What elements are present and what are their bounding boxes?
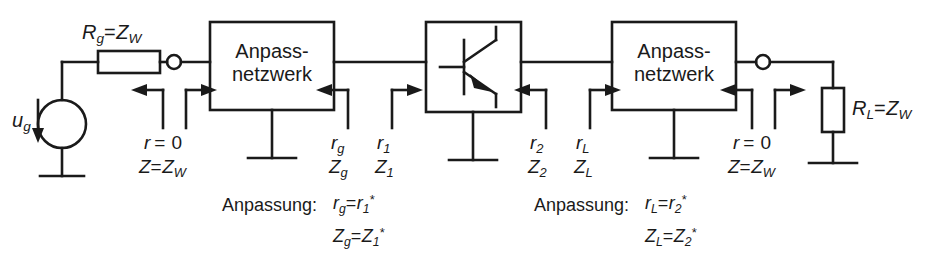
label-Z1-impedance: Z1 [375, 157, 394, 180]
ann-l2-lhs-sub: g [344, 235, 351, 249]
arrow-r1-head [407, 84, 423, 96]
label-output-z: Z=ZW [728, 157, 775, 180]
output-z-equals: = [740, 156, 752, 177]
ann-l1-rhs-sub: 1 [363, 202, 370, 216]
ann-l1-lhs-sub: g [339, 202, 346, 216]
ann-r1-eq: = [658, 193, 669, 213]
output-z-symbol: Z [728, 156, 740, 177]
input-z-equals: = [151, 156, 163, 177]
resistor-rl-body [822, 88, 844, 132]
Zg-symbol: Z [329, 156, 341, 177]
mn-right-line1: Anpass- [612, 40, 736, 63]
zw-subscript: W [128, 31, 141, 46]
input-z-value-sub: W [174, 165, 186, 180]
box-label-matching-network-left: Anpass- netzwerk [210, 40, 334, 86]
ann-r2-rhs: Z [674, 226, 685, 246]
rl-zw-symbol: Z [886, 97, 898, 119]
ann-l2-rhs: Z [362, 226, 373, 246]
annotation-left-title: Anpassung: [222, 196, 317, 214]
output-z-value: Z [751, 156, 763, 177]
mn-right-line2: netzwerk [612, 63, 736, 86]
box-label-matching-network-right: Anpass- netzwerk [612, 40, 736, 86]
label-Zg-impedance: Zg [329, 157, 348, 180]
ann-r2-eq: = [663, 226, 674, 246]
ann-l2-lhs: Z [333, 226, 344, 246]
arrow-in-left-head [131, 84, 147, 96]
rg-refl-sub: g [337, 141, 344, 156]
rl-zw-subscript: W [898, 107, 911, 122]
input-r-symbol: r [144, 132, 150, 153]
ann-l1-star: * [370, 192, 375, 207]
input-z-value: Z [162, 156, 174, 177]
label-input-r-zero: r = 0 [144, 133, 183, 152]
label-output-r-zero: r = 0 [733, 133, 772, 152]
label-rl-equals-zw: RL=ZW [852, 98, 911, 121]
label-rL-reflection: rL [576, 133, 590, 156]
rg-symbol: R [82, 21, 96, 43]
label-rg-equals-zw: Rg=ZW [82, 22, 141, 45]
terminal-output-circle [756, 55, 770, 69]
ug-subscript: g [23, 119, 31, 134]
label-input-z: Z=ZW [139, 157, 186, 180]
label-ZL-impedance: ZL [574, 157, 593, 180]
Z2-symbol: Z [528, 156, 540, 177]
ann-l2-star: * [380, 225, 385, 240]
rl-symbol: R [852, 97, 866, 119]
label-Z2-impedance: Z2 [528, 157, 547, 180]
annotation-right-line2: ZL=Z2* [645, 227, 697, 248]
ann-l1-eq: = [346, 193, 357, 213]
voltage-source-circle [38, 100, 86, 148]
r2-sub: 2 [536, 141, 543, 156]
Zg-sub: g [341, 165, 348, 180]
label-r1-reflection: r1 [377, 133, 391, 156]
mn-left-line1: Anpass- [210, 40, 334, 63]
ug-symbol: u [12, 109, 23, 131]
label-rg-reflection: rg [331, 133, 345, 156]
ann-r2-lhs: Z [645, 226, 656, 246]
terminal-input-circle [167, 55, 181, 69]
rg-subscript: g [96, 31, 104, 46]
ZL-symbol: Z [574, 156, 586, 177]
annotation-left-line1: rg=r1* [333, 194, 375, 215]
r1-sub: 1 [383, 141, 390, 156]
input-r-value: = 0 [154, 132, 182, 153]
ann-l2-eq: = [351, 226, 362, 246]
Z2-sub: 2 [540, 165, 547, 180]
annotation-right-line1: rL=r2* [645, 194, 687, 215]
Z1-sub: 1 [387, 165, 394, 180]
ann-r2-rhs-sub: 2 [685, 235, 692, 249]
rl-subscript: L [866, 107, 874, 122]
rL-sub: L [582, 141, 589, 156]
input-z-symbol: Z [139, 156, 151, 177]
output-r-symbol: r [733, 132, 739, 153]
arrow-out-right-head [790, 84, 806, 96]
label-ug: ug [12, 110, 31, 133]
rg-equals: = [104, 21, 116, 43]
annotation-right-title-text: Anpassung: [534, 195, 629, 215]
transistor-collector-diagonal [464, 40, 496, 62]
rl-equals: = [874, 97, 886, 119]
Z1-symbol: Z [375, 156, 387, 177]
annotation-left-title-text: Anpassung: [222, 195, 317, 215]
ann-r2-star: * [692, 225, 697, 240]
circuit-diagram: Rg=ZW ug Anpass- netzwerk Anpass- netzwe… [0, 0, 939, 267]
ann-r2-lhs-sub: L [656, 235, 663, 249]
output-r-value: = 0 [743, 132, 771, 153]
output-z-value-sub: W [763, 165, 775, 180]
annotation-left-line2: Zg=Z1* [333, 227, 385, 248]
ZL-sub: L [586, 165, 593, 180]
annotation-right-title: Anpassung: [534, 196, 629, 214]
ann-r1-rhs-sub: 2 [675, 202, 682, 216]
resistor-rg-body [98, 51, 160, 73]
label-r2-reflection: r2 [530, 133, 544, 156]
mn-left-line2: netzwerk [210, 63, 334, 86]
ann-l2-rhs-sub: 1 [373, 235, 380, 249]
ann-r1-lhs-sub: L [651, 202, 658, 216]
ann-r1-star: * [682, 192, 687, 207]
zw-symbol: Z [116, 21, 128, 43]
